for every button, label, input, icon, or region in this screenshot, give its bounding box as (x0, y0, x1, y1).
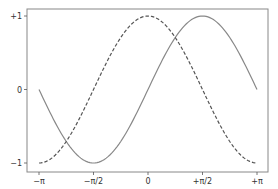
x-tick-label: −π/2 (84, 177, 103, 186)
x-tick-label: +π/2 (193, 177, 212, 186)
x-tick-label: +π (251, 177, 263, 186)
x-axis: −π−π/20+π/2+π (33, 172, 263, 186)
line-chart: −π−π/20+π/2+π +10−1 (0, 0, 278, 189)
x-tick-label: 0 (145, 177, 150, 186)
y-tick-label: +1 (10, 12, 22, 21)
x-tick-label: −π (33, 177, 45, 186)
y-tick-label: 0 (17, 86, 22, 95)
y-tick-label: −1 (10, 159, 22, 168)
y-axis: +10−1 (10, 12, 27, 168)
